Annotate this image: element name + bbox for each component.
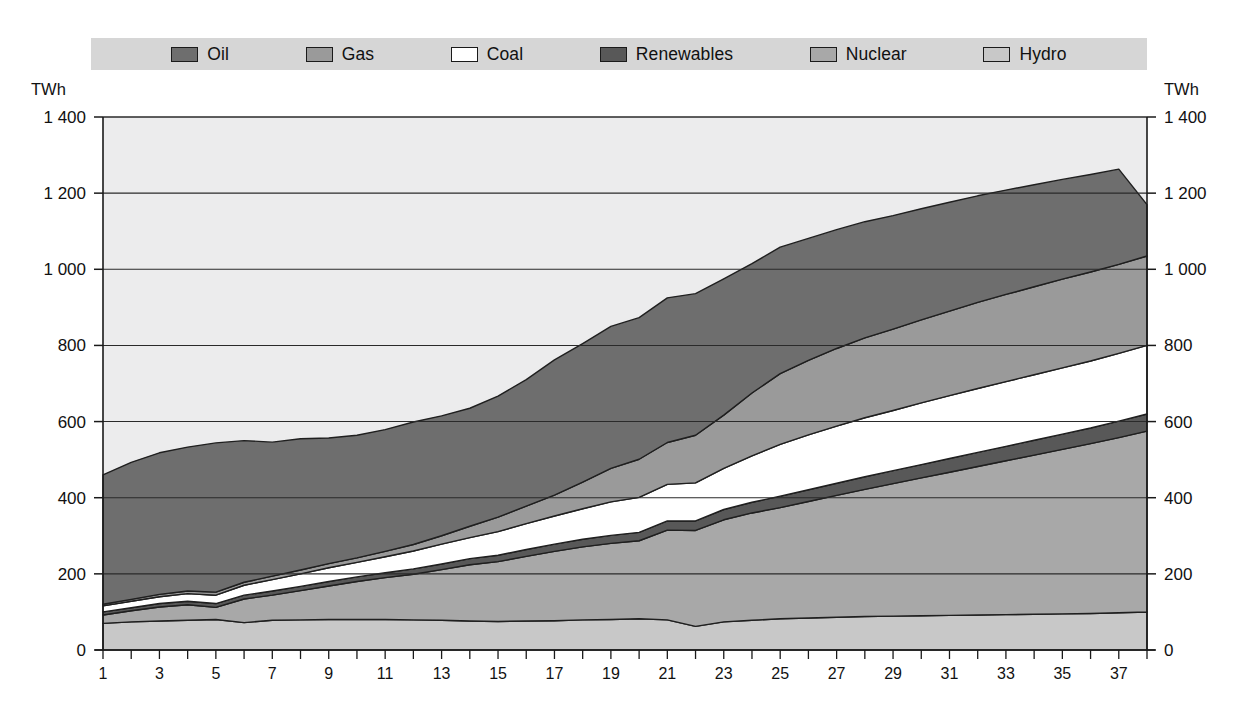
- y-tick-label-left-1000: 1 000: [43, 260, 86, 279]
- x-tick-label-25: 25: [771, 665, 789, 682]
- y-tick-label-right-600: 600: [1164, 413, 1192, 432]
- x-tick-label-23: 23: [715, 665, 733, 682]
- y-tick-label-left-0: 0: [77, 641, 86, 660]
- x-axis-ticks: 135791113151719212325272931333537: [99, 650, 1147, 682]
- y-tick-label-left-1200: 1 200: [43, 184, 86, 203]
- x-tick-label-19: 19: [602, 665, 620, 682]
- chart-page: OilGasCoalRenewablesNuclearHydro TWh TWh…: [0, 0, 1238, 713]
- y-tick-label-right-200: 200: [1164, 565, 1192, 584]
- x-tick-label-3: 3: [155, 665, 164, 682]
- x-tick-label-21: 21: [658, 665, 676, 682]
- y-tick-label-left-200: 200: [58, 565, 86, 584]
- y-tick-label-right-0: 0: [1164, 641, 1173, 660]
- y-tick-label-left-400: 400: [58, 489, 86, 508]
- x-tick-label-35: 35: [1053, 665, 1071, 682]
- x-tick-label-31: 31: [941, 665, 959, 682]
- y-tick-label-left-800: 800: [58, 336, 86, 355]
- x-tick-label-13: 13: [433, 665, 451, 682]
- x-tick-label-33: 33: [997, 665, 1015, 682]
- x-tick-label-9: 9: [324, 665, 333, 682]
- x-tick-label-29: 29: [884, 665, 902, 682]
- y-tick-label-right-1200: 1 200: [1164, 184, 1207, 203]
- stacked-area-chart: 002002004004006006008008001 0001 0001 20…: [0, 0, 1238, 713]
- y-tick-label-right-400: 400: [1164, 489, 1192, 508]
- x-tick-label-27: 27: [828, 665, 846, 682]
- x-tick-label-17: 17: [546, 665, 564, 682]
- y-tick-label-right-800: 800: [1164, 336, 1192, 355]
- x-tick-label-11: 11: [377, 665, 394, 682]
- y-tick-label-right-1400: 1 400: [1164, 108, 1207, 127]
- y-tick-label-left-600: 600: [58, 413, 86, 432]
- x-tick-label-15: 15: [489, 665, 507, 682]
- x-tick-label-5: 5: [211, 665, 220, 682]
- x-tick-label-1: 1: [99, 665, 108, 682]
- x-tick-label-37: 37: [1110, 665, 1128, 682]
- x-tick-label-7: 7: [268, 665, 277, 682]
- y-tick-label-left-1400: 1 400: [43, 108, 86, 127]
- y-tick-label-right-1000: 1 000: [1164, 260, 1207, 279]
